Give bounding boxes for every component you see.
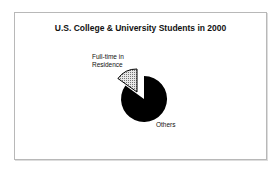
label-others: Others bbox=[156, 121, 176, 129]
label-full-time: Full-time in Residence bbox=[92, 53, 124, 68]
label-full-time-line2: Residence bbox=[92, 61, 124, 69]
label-full-time-line1: Full-time in bbox=[92, 53, 124, 61]
pie-chart bbox=[0, 0, 278, 172]
